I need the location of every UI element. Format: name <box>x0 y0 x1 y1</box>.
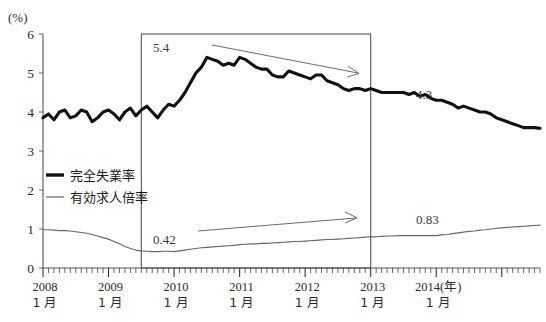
jobs-ratio-line <box>43 225 540 252</box>
y-axis-tick-label: 2 <box>27 183 34 198</box>
y-axis-tick-label: 0 <box>27 261 34 276</box>
x-axis-month-label: 1 月 <box>229 295 254 310</box>
x-axis-month-label: 1 月 <box>33 295 58 310</box>
x-axis-year-label: 2011 <box>229 280 254 294</box>
x-axis-year-label: 2013 <box>360 280 385 294</box>
annotation-end-unemployment: 4.3 <box>416 87 432 102</box>
y-axis-unit-label: (%) <box>8 10 28 25</box>
x-axis-year-label: 2014(年) <box>415 280 461 294</box>
legend-label-unemployment: 完全失業率 <box>70 168 135 183</box>
legend-label-jobs-ratio: 有効求人倍率 <box>70 190 148 205</box>
x-axis-year-label: 2009 <box>98 280 123 294</box>
x-axis-month-label: 1 月 <box>295 295 320 310</box>
annotation-trough-jobs-ratio: 0.42 <box>153 232 176 247</box>
chart-container: (%) 0123456 20081 月20091 月20101 月20111 月… <box>0 0 546 322</box>
y-axis-tick-label: 1 <box>27 222 34 237</box>
annotation-peak-unemployment: 5.4 <box>153 40 170 55</box>
y-axis-tick-label: 5 <box>27 66 34 81</box>
x-axis-month-label: 1 月 <box>426 295 451 310</box>
x-axis-year-label: 2010 <box>164 280 189 294</box>
y-axis-ticks: 0123456 <box>27 27 43 276</box>
declining-trend-arrow <box>212 45 359 77</box>
economic-line-chart: (%) 0123456 20081 月20091 月20101 月20111 月… <box>0 0 546 322</box>
chart-legend: 完全失業率 有効求人倍率 <box>46 168 148 205</box>
x-axis-month-label: 1 月 <box>98 295 123 310</box>
x-axis-labels: 20081 月20091 月20101 月20111 月20121 月20131… <box>33 280 462 310</box>
annotation-end-jobs-ratio: 0.83 <box>416 212 439 227</box>
rising-trend-arrow <box>198 212 357 231</box>
y-axis-tick-label: 4 <box>27 105 34 120</box>
x-axis-ticks <box>43 268 540 277</box>
axes-group <box>43 34 540 268</box>
x-axis-year-label: 2008 <box>33 280 58 294</box>
y-axis-tick-label: 3 <box>27 144 34 159</box>
x-axis-month-label: 1 月 <box>360 295 385 310</box>
x-axis-month-label: 1 月 <box>164 295 189 310</box>
y-axis-tick-label: 6 <box>27 27 34 42</box>
unemployment-rate-line <box>43 57 540 128</box>
x-axis-year-label: 2012 <box>295 280 320 294</box>
